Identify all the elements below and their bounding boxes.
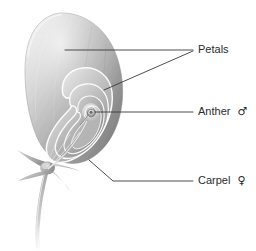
labels-group: Petals Anther ♂ Carpel ♀ [198,43,247,187]
label-petals-text: Petals [198,43,229,55]
sepal-right [51,163,80,171]
stem-group [36,173,46,247]
label-petals: Petals [198,43,229,55]
flower-illustration [17,8,132,247]
label-anther: Anther ♂ [198,105,247,118]
anther-core [90,111,93,114]
label-carpel: Carpel ♀ [198,174,246,187]
male-symbol-icon: ♂ [237,105,247,118]
female-symbol-icon: ♀ [237,174,245,187]
leader-line-carpel [89,160,193,181]
label-carpel-text: Carpel [198,174,230,186]
flower-diagram: Petals Anther ♂ Carpel ♀ [0,0,256,251]
label-anther-text: Anther [198,105,231,117]
